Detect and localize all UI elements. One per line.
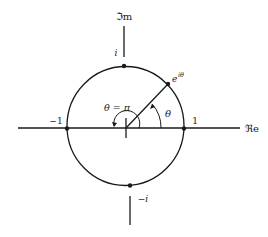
- point-one: [182, 126, 186, 130]
- label-e-exp: iθ: [178, 71, 184, 79]
- point-i: [122, 64, 126, 68]
- theta-arrowhead: [150, 104, 155, 109]
- point-minus-one: [65, 126, 69, 130]
- radius-line: [126, 84, 168, 128]
- point-e-i-theta: [166, 82, 170, 86]
- label-e-base: e: [172, 74, 177, 84]
- label-i: i: [115, 48, 118, 58]
- theta-pi-arc: [114, 111, 140, 128]
- label-one: 1: [192, 116, 198, 126]
- unit-circle-diagram: ℑm ℜe i −i −1 1 e iθ θ θ = π: [0, 0, 268, 237]
- point-minus-i: [128, 183, 132, 187]
- label-theta: θ: [165, 108, 171, 119]
- label-minus-i: −i: [138, 194, 149, 204]
- theta-pi-arrowhead: [112, 122, 117, 127]
- label-theta-pi: θ = π: [104, 102, 131, 113]
- label-minus-one: −1: [49, 116, 62, 126]
- imag-axis-label: ℑm: [116, 11, 133, 22]
- real-axis-label: ℜe: [245, 123, 259, 134]
